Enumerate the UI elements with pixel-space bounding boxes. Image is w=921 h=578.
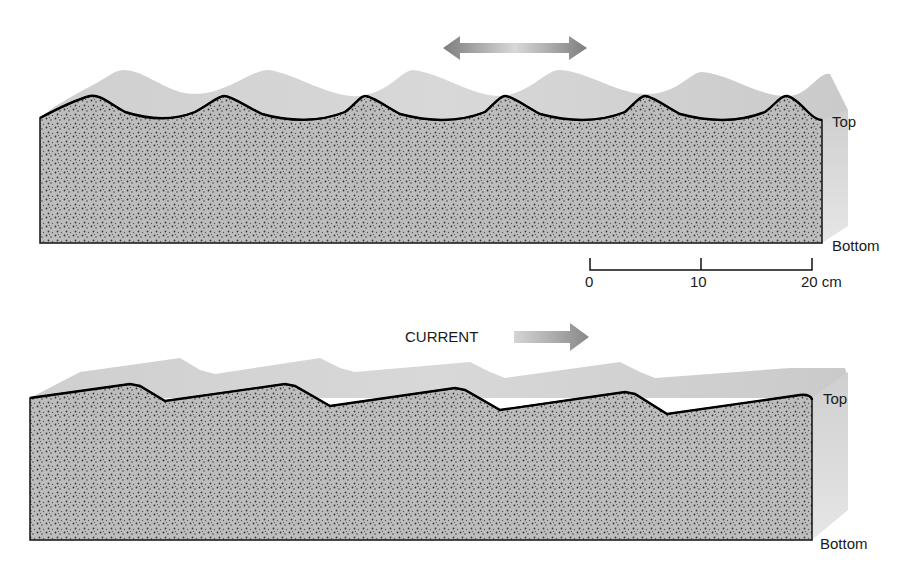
oscillation-arrow-icon bbox=[443, 36, 587, 60]
ripple-marks-diagram bbox=[0, 0, 921, 578]
current-ripple-block bbox=[30, 323, 848, 540]
top-label-lower: Top bbox=[823, 390, 847, 407]
scale-tick-0: 0 bbox=[585, 273, 593, 290]
bottom-label-lower: Bottom bbox=[820, 535, 868, 552]
sediment-front-face bbox=[30, 384, 812, 540]
scale-tick-20: 20 cm bbox=[801, 273, 842, 290]
current-arrow-icon bbox=[514, 323, 589, 351]
scale-bar bbox=[590, 258, 812, 270]
scale-tick-10: 10 bbox=[690, 273, 707, 290]
wave-ripple-block bbox=[40, 36, 848, 243]
bottom-label-upper: Bottom bbox=[832, 237, 880, 254]
top-label-upper: Top bbox=[832, 113, 856, 130]
current-label: CURRENT bbox=[405, 328, 478, 345]
